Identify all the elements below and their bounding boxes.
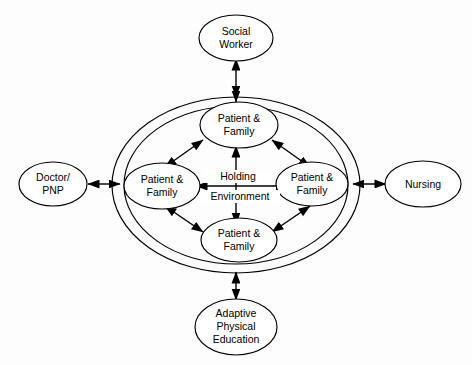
node-adaptive-physical-education[interactable]: Adaptive Physical Education	[195, 299, 277, 355]
node-patient-family-top[interactable]: Patient & Family	[200, 102, 278, 148]
adaptive-physical-education-label-line1: Adaptive	[216, 307, 257, 319]
doctor-pnp-label-line1: Doctor/	[36, 171, 70, 183]
node-doctor-pnp[interactable]: Doctor/ PNP	[19, 162, 87, 206]
adaptive-physical-education-label-line3: Education	[213, 333, 260, 345]
holding-environment-label-line1: Holding	[220, 170, 256, 182]
node-social-worker[interactable]: Social Worker	[199, 15, 273, 61]
holding-environment-label-line2: Environment	[211, 190, 270, 202]
node-patient-family-right[interactable]: Patient & Family	[276, 162, 348, 206]
patient-family-left-label-line2: Family	[147, 186, 179, 198]
patient-family-top-label-line2: Family	[224, 125, 256, 137]
connector-patient-bottom-to-patient-right	[272, 206, 310, 232]
social-worker-label-line1: Social	[222, 25, 251, 37]
node-patient-family-left[interactable]: Patient & Family	[124, 163, 200, 209]
patient-family-bottom-label-line2: Family	[224, 240, 256, 252]
diagram-svg: Patient & Family Patient & Family Patien…	[0, 0, 472, 365]
connector-patient-bottom-to-patient-left	[165, 206, 203, 232]
node-patient-family-bottom[interactable]: Patient & Family	[201, 218, 277, 262]
patient-family-right-label-line1: Patient &	[291, 171, 334, 183]
doctor-pnp-label-line2: PNP	[42, 184, 64, 196]
patient-family-left-label-line1: Patient &	[141, 173, 184, 185]
diagram-canvas: Patient & Family Patient & Family Patien…	[0, 0, 472, 365]
connector-patient-top-to-patient-left	[165, 140, 203, 167]
patient-family-bottom-label-line1: Patient &	[218, 227, 261, 239]
patient-family-top-label-line1: Patient &	[218, 112, 261, 124]
social-worker-label-line2: Worker	[219, 38, 253, 50]
nursing-label-line1: Nursing	[405, 178, 441, 190]
patient-family-right-label-line2: Family	[297, 184, 329, 196]
adaptive-physical-education-label-line2: Physical	[216, 320, 255, 332]
node-nursing[interactable]: Nursing	[385, 161, 461, 207]
